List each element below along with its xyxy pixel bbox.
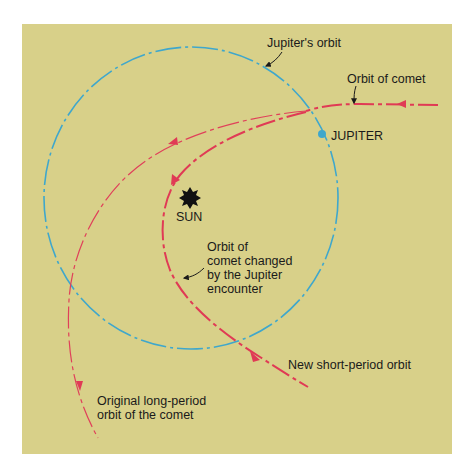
sun-starburst-icon [179, 187, 201, 209]
new-short-period-orbit-label: New short-period orbit [288, 358, 411, 372]
comet-orbit-diagram: Jupiter's orbit Orbit of comet JUPITER S… [0, 0, 471, 465]
jupiters-orbit-label: Jupiter's orbit [267, 36, 341, 50]
changed-orbit-label-line-3: by the Jupiter [207, 268, 282, 282]
jupiter-label: JUPITER [331, 129, 383, 143]
changed-orbit-label-line-4: encounter [207, 282, 263, 296]
original-orbit-label-line-2: orbit of the comet [97, 408, 194, 422]
jupiter-planet-icon [318, 130, 326, 138]
changed-orbit-label-line-1: Orbit of [207, 240, 249, 254]
sun-label: SUN [176, 210, 202, 224]
background-panel [22, 24, 452, 454]
orbit-of-comet-label: Orbit of comet [347, 72, 426, 86]
original-orbit-label-line-1: Original long-period [97, 394, 206, 408]
changed-orbit-label-line-2: comet changed [207, 254, 293, 268]
